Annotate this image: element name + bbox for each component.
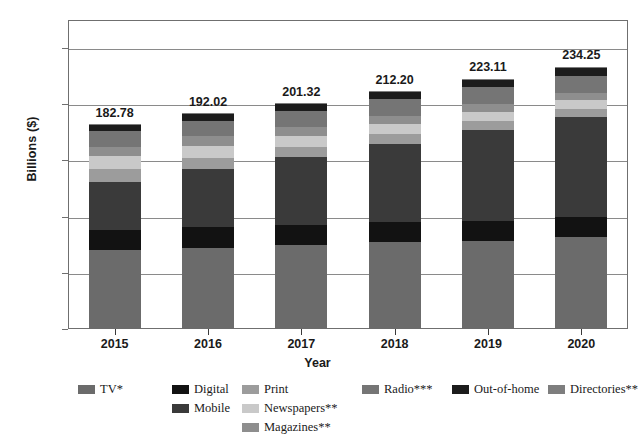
legend-label: Newspapers** (264, 401, 338, 416)
x-tick-mark (488, 329, 489, 335)
bar-group[interactable]: 201.32 (275, 20, 327, 329)
legend-item[interactable]: Magazines** (242, 420, 331, 435)
x-tick-label: 2020 (546, 337, 616, 351)
bar-segment[interactable] (89, 131, 141, 147)
bar-segment[interactable] (89, 230, 141, 250)
bar-group[interactable]: 223.11 (462, 20, 514, 329)
legend-item[interactable]: Digital (172, 382, 229, 397)
x-tick-label: 2018 (360, 337, 430, 351)
bar-total-label: 192.02 (189, 95, 227, 109)
bar-segment[interactable] (462, 241, 514, 329)
bar-total-label: 201.32 (282, 85, 320, 99)
legend-label: Directories** (570, 382, 638, 397)
bar-segment[interactable] (182, 146, 234, 158)
bar-segment[interactable] (275, 147, 327, 157)
bar-segment[interactable] (369, 144, 421, 223)
legend-item[interactable]: Newspapers** (242, 401, 338, 416)
bar-segment[interactable] (369, 99, 421, 115)
bar-stack (369, 91, 421, 329)
bar-segment[interactable] (462, 80, 514, 88)
y-tick-mark (62, 329, 68, 330)
legend-swatch-icon (242, 423, 259, 432)
bar-total-label: 234.25 (562, 48, 600, 62)
bar-segment[interactable] (182, 169, 234, 227)
x-tick-label: 2019 (453, 337, 523, 351)
bar-stack (275, 103, 327, 329)
bar-segment[interactable] (89, 182, 141, 230)
legend-swatch-icon (172, 385, 189, 394)
legend-label: Out-of-home (474, 382, 539, 397)
x-axis-title: Year (0, 356, 635, 370)
bar-segment[interactable] (555, 117, 607, 218)
bar-segment[interactable] (182, 136, 234, 146)
bar-stack (462, 79, 514, 330)
x-tick-label: 2015 (80, 337, 150, 351)
legend-label: Digital (194, 382, 229, 397)
legend-label: Mobile (194, 401, 230, 416)
bar-segment[interactable] (369, 92, 421, 99)
bar-segment[interactable] (369, 222, 421, 242)
legend-item[interactable]: Directories** (548, 382, 638, 397)
x-tick-label: 2016 (173, 337, 243, 351)
bar-segment[interactable] (182, 227, 234, 247)
legend-swatch-icon (548, 385, 565, 394)
bar-segment[interactable] (555, 217, 607, 237)
bar-segment[interactable] (369, 124, 421, 134)
x-tick-mark (208, 329, 209, 335)
x-tick-mark (581, 329, 582, 335)
legend-item[interactable]: TV* (78, 382, 123, 397)
legend-item[interactable]: Mobile (172, 401, 230, 416)
bar-segment[interactable] (182, 121, 234, 137)
bar-segment[interactable] (89, 250, 141, 329)
bar-segment[interactable] (555, 109, 607, 117)
bar-segment[interactable] (555, 68, 607, 76)
bar-stack (89, 124, 141, 329)
bar-segment[interactable] (89, 169, 141, 182)
x-tick-mark (115, 329, 116, 335)
legend-label: Radio*** (384, 382, 433, 397)
bar-segment[interactable] (462, 104, 514, 112)
bar-segment[interactable] (462, 221, 514, 241)
bar-segment[interactable] (555, 100, 607, 108)
bar-segment[interactable] (369, 116, 421, 124)
legend-swatch-icon (362, 385, 379, 394)
bar-group[interactable]: 234.25 (555, 20, 607, 329)
bar-stack (555, 67, 607, 329)
bar-segment[interactable] (369, 242, 421, 329)
legend-swatch-icon (78, 385, 95, 394)
legend-swatch-icon (452, 385, 469, 394)
bar-segment[interactable] (275, 136, 327, 147)
legend-label: Print (264, 382, 288, 397)
bar-segment[interactable] (555, 237, 607, 329)
bar-segment[interactable] (462, 112, 514, 121)
bar-segment[interactable] (89, 156, 141, 168)
legend-item[interactable]: Radio*** (362, 382, 433, 397)
bar-segment[interactable] (275, 245, 327, 329)
bar-segment[interactable] (462, 130, 514, 221)
legend-item[interactable]: Print (242, 382, 288, 397)
bar-segment[interactable] (275, 104, 327, 111)
bar-total-label: 182.78 (96, 106, 134, 120)
bar-segment[interactable] (369, 134, 421, 144)
bar-segment[interactable] (275, 225, 327, 245)
x-tick-mark (395, 329, 396, 335)
bar-segment[interactable] (275, 157, 327, 224)
bar-segment[interactable] (182, 158, 234, 169)
bar-group[interactable]: 182.78 (89, 20, 141, 329)
bar-segment[interactable] (555, 93, 607, 100)
bar-segment[interactable] (462, 87, 514, 104)
bar-segment[interactable] (275, 111, 327, 127)
legend-item[interactable]: Out-of-home (452, 382, 539, 397)
bar-segment[interactable] (555, 76, 607, 93)
bar-segment[interactable] (275, 127, 327, 136)
bar-group[interactable]: 192.02 (182, 20, 234, 329)
legend-swatch-icon (242, 385, 259, 394)
bar-segment[interactable] (89, 147, 141, 157)
bar-total-label: 212.20 (376, 73, 414, 87)
legend-label: Magazines** (264, 420, 331, 435)
bar-segment[interactable] (462, 121, 514, 130)
bar-group[interactable]: 212.20 (369, 20, 421, 329)
bar-segment[interactable] (182, 248, 234, 329)
chart-legend: TV*DigitalMobilePrintNewspapers**Magazin… (0, 382, 635, 444)
